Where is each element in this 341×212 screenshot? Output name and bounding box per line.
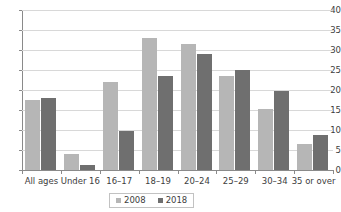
bar-2008-under-16[interactable] [64,154,79,170]
legend-label-2018: 2018 [166,195,188,205]
x-tick-mark [255,170,256,174]
legend-swatch-2018 [158,198,163,203]
chart-legend: 2008 2018 [109,193,194,208]
bar-2008-35-or-over[interactable] [297,144,312,170]
x-tick-mark [139,170,140,174]
bar-2008-all-ages[interactable] [25,100,40,170]
legend-label-2008: 2008 [124,195,146,205]
bar-group [178,10,217,170]
x-tick-label: 35 or over [288,176,339,186]
bar-2018-25–29[interactable] [235,70,250,170]
bar-2018-under-16[interactable] [80,165,95,170]
legend-item-2018[interactable]: 2018 [158,195,188,205]
bar-2018-all-ages[interactable] [41,98,56,170]
bar-2008-20–24[interactable] [181,44,196,170]
plot-area [22,10,333,170]
bar-2008-25–29[interactable] [219,76,234,170]
bar-2018-20–24[interactable] [197,54,212,170]
x-tick-mark [100,170,101,174]
bar-2008-30–34[interactable] [258,109,273,170]
bar-2018-30–34[interactable] [274,91,289,170]
bar-chart: 0510152025303540 All agesUnder 1616–1718… [0,0,341,212]
x-tick-mark [216,170,217,174]
x-tick-mark [178,170,179,174]
x-tick-mark [333,170,334,174]
x-tick-mark [294,170,295,174]
bar-group [216,10,255,170]
legend-item-2008[interactable]: 2008 [116,195,146,205]
bar-group [22,10,61,170]
x-tick-mark [22,170,23,174]
x-tick-mark [61,170,62,174]
bar-2018-18–19[interactable] [158,76,173,170]
bar-group [61,10,100,170]
bar-group [255,10,294,170]
bar-2018-35-or-over[interactable] [313,135,328,170]
bar-2018-16–17[interactable] [119,131,134,170]
bar-group [294,10,333,170]
bar-2008-16–17[interactable] [103,82,118,170]
legend-swatch-2008 [116,198,121,203]
bar-group [100,10,139,170]
bar-group [139,10,178,170]
bar-2008-18–19[interactable] [142,38,157,170]
